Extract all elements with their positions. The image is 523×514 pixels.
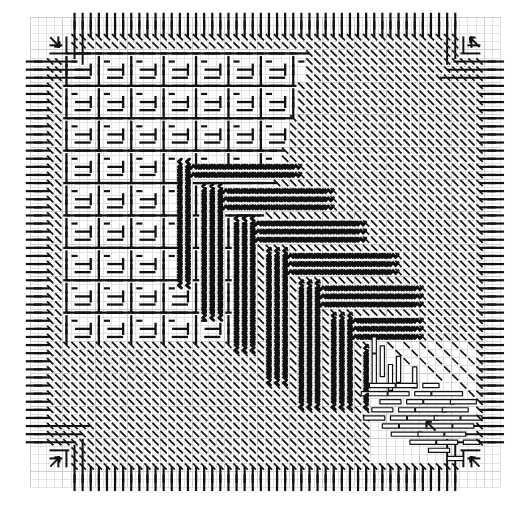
texture-field-plot [0, 0, 523, 514]
field-canvas [0, 0, 523, 514]
